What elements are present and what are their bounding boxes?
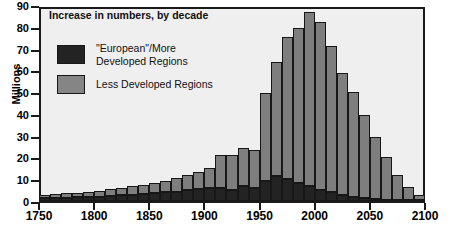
bar-segment-less-developed bbox=[282, 37, 293, 179]
legend-label-developed: "European"/More Developed Regions bbox=[96, 42, 188, 68]
bar-segment-developed bbox=[403, 199, 414, 201]
x-tick-label: 1900 bbox=[174, 209, 234, 223]
bar-segment-developed bbox=[215, 188, 226, 201]
y-tick-mark bbox=[31, 50, 39, 52]
bar-column bbox=[348, 92, 359, 201]
y-tick-mark bbox=[31, 71, 39, 73]
bar-column bbox=[72, 193, 83, 201]
bar-segment-developed bbox=[226, 190, 237, 201]
bar-column bbox=[414, 195, 425, 201]
bar-segment-less-developed bbox=[204, 168, 215, 187]
y-tick-mark bbox=[31, 115, 39, 117]
bar-column bbox=[94, 191, 105, 201]
bar-segment-developed bbox=[61, 198, 72, 201]
bar-column bbox=[215, 155, 226, 201]
bar-segment-developed bbox=[171, 192, 182, 201]
bar-segment-less-developed bbox=[392, 175, 403, 201]
bar-segment-less-developed bbox=[149, 183, 160, 194]
y-tick-mark bbox=[31, 158, 39, 160]
bar-segment-less-developed bbox=[182, 175, 193, 190]
bar-segment-less-developed bbox=[193, 172, 204, 189]
y-tick-label: 0 bbox=[0, 197, 29, 208]
bar-segment-developed bbox=[249, 188, 260, 201]
legend-item-less-developed: Less Developed Regions bbox=[57, 75, 213, 94]
y-tick-mark bbox=[31, 137, 39, 139]
y-tick-label: 50 bbox=[0, 88, 29, 99]
bar-column bbox=[116, 188, 127, 201]
bar-segment-developed bbox=[381, 199, 392, 201]
bar-segment-developed bbox=[304, 186, 315, 201]
legend-label-less-developed: Less Developed Regions bbox=[96, 78, 213, 91]
y-tick-label: 90 bbox=[0, 1, 29, 12]
bar-column bbox=[149, 183, 160, 201]
bar-column bbox=[381, 157, 392, 201]
bar-segment-less-developed bbox=[215, 155, 226, 188]
bar-segment-developed bbox=[315, 190, 326, 201]
x-tick-label: 2000 bbox=[285, 209, 345, 223]
legend: "European"/More Developed Regions Less D… bbox=[57, 42, 213, 101]
y-tick-label: 40 bbox=[0, 110, 29, 121]
bar-column bbox=[359, 115, 370, 201]
legend-swatch-developed-icon bbox=[57, 45, 85, 64]
bar-segment-less-developed bbox=[381, 157, 392, 200]
bar-segment-developed bbox=[149, 193, 160, 201]
bar-segment-developed bbox=[105, 196, 116, 201]
bar-column bbox=[326, 46, 337, 201]
bar-column bbox=[238, 148, 249, 201]
bar-segment-developed bbox=[72, 197, 83, 201]
bar-column bbox=[83, 192, 94, 201]
y-tick-mark bbox=[31, 180, 39, 182]
bar-segment-less-developed bbox=[238, 148, 249, 186]
y-tick-mark bbox=[31, 93, 39, 95]
bar-segment-developed bbox=[337, 195, 348, 201]
bar-column bbox=[282, 37, 293, 201]
bar-segment-developed bbox=[260, 181, 271, 201]
bar-column bbox=[249, 150, 260, 201]
bar-segment-less-developed bbox=[116, 188, 127, 195]
bar-column bbox=[403, 187, 414, 201]
bar-column bbox=[337, 73, 348, 201]
y-tick-label: 60 bbox=[0, 66, 29, 77]
bar-segment-developed bbox=[348, 197, 359, 201]
chart-figure: Millions 0102030405060708090 17501800185… bbox=[0, 0, 466, 228]
x-tick-label: 1750 bbox=[9, 209, 69, 223]
bar-column bbox=[61, 193, 72, 201]
x-tick-label: 1950 bbox=[230, 209, 290, 223]
bar-segment-less-developed bbox=[315, 22, 326, 191]
bar-segment-less-developed bbox=[337, 73, 348, 195]
x-tick-label: 1800 bbox=[64, 209, 124, 223]
bar-column bbox=[39, 195, 50, 201]
bar-segment-developed bbox=[50, 198, 61, 201]
chart-title: Increase in numbers, by decade bbox=[49, 9, 208, 21]
bar-segment-less-developed bbox=[271, 62, 282, 176]
y-tick-label: 70 bbox=[0, 45, 29, 56]
bar-column bbox=[392, 175, 403, 201]
x-tick-label: 2050 bbox=[340, 209, 400, 223]
bar-column bbox=[50, 194, 61, 201]
bar-segment-developed bbox=[293, 183, 304, 201]
bar-column bbox=[105, 189, 116, 201]
bar-column bbox=[370, 137, 381, 201]
bar-column bbox=[182, 175, 193, 201]
bar-segment-developed bbox=[94, 197, 105, 201]
bar-segment-developed bbox=[193, 189, 204, 201]
bar-segment-less-developed bbox=[348, 92, 359, 197]
bar-segment-less-developed bbox=[171, 178, 182, 191]
bar-segment-developed bbox=[160, 192, 171, 201]
y-tick-mark bbox=[31, 6, 39, 8]
bar-segment-developed bbox=[116, 195, 127, 201]
plot-area bbox=[39, 7, 425, 203]
bar-column bbox=[304, 12, 315, 201]
bar-segment-developed bbox=[127, 195, 138, 201]
y-tick-label: 10 bbox=[0, 175, 29, 186]
bar-segment-developed bbox=[326, 192, 337, 201]
bar-column bbox=[293, 28, 304, 201]
bar-segment-less-developed bbox=[127, 186, 138, 194]
bar-segment-less-developed bbox=[370, 137, 381, 199]
bar-segment-developed bbox=[414, 199, 425, 201]
bar-segment-less-developed bbox=[293, 28, 304, 183]
x-tick-label: 1850 bbox=[119, 209, 179, 223]
bar-segment-less-developed bbox=[260, 93, 271, 180]
bar-segment-less-developed bbox=[226, 155, 237, 190]
y-tick-label: 80 bbox=[0, 23, 29, 34]
